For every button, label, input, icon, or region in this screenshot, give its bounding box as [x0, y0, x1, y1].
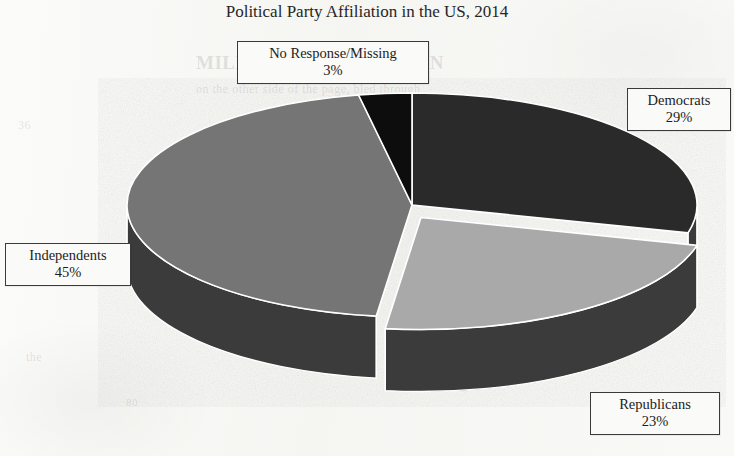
callout-no-response-label: No Response/Missing — [269, 45, 397, 61]
callout-republicans-label: Republicans — [619, 396, 691, 412]
chart-title: Political Party Affiliation in the US, 2… — [0, 2, 734, 22]
callout-democrats-label: Democrats — [648, 92, 711, 108]
callout-republicans: Republicans 23% — [590, 392, 720, 435]
callout-independents-percent: 45% — [13, 264, 123, 281]
callout-independents-label: Independents — [29, 247, 106, 263]
callout-republicans-percent: 23% — [598, 413, 712, 430]
callout-democrats-percent: 29% — [635, 109, 723, 126]
callout-no-response-percent: 3% — [245, 62, 421, 79]
callout-no-response: No Response/Missing 3% — [237, 41, 429, 84]
pie-slices-group — [127, 93, 697, 391]
callout-democrats: Democrats 29% — [627, 88, 731, 131]
callout-independents: Independents 45% — [5, 243, 131, 286]
